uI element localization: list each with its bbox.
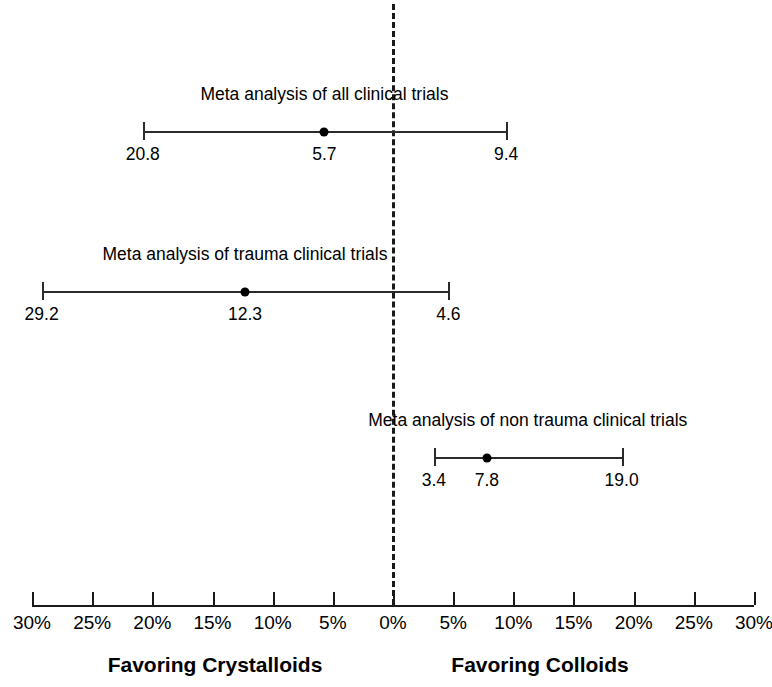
x-axis-tick	[333, 592, 335, 605]
ci-lower-cap	[42, 282, 44, 300]
x-axis-tick	[273, 592, 275, 605]
x-axis-tick	[453, 592, 455, 605]
ci-lower-value: 29.2	[25, 306, 59, 324]
point-estimate-value: 12.3	[228, 306, 262, 324]
favoring-left-caption: Favoring Crystalloids	[108, 654, 323, 675]
ci-upper-value: 9.4	[494, 146, 518, 164]
x-axis-tick	[152, 592, 154, 605]
x-axis-tick-label: 10%	[254, 613, 292, 632]
x-axis-tick-label: 5%	[319, 613, 346, 632]
x-axis-tick-label: 20%	[133, 613, 171, 632]
forest-plot: Meta analysis of all clinical trials20.8…	[0, 0, 772, 687]
x-axis-tick	[513, 592, 515, 605]
ci-upper-value: 4.6	[436, 306, 460, 324]
ci-lower-cap	[434, 448, 436, 466]
point-estimate-value: 5.7	[312, 146, 336, 164]
ci-upper-cap	[506, 122, 508, 140]
x-axis-tick-label: 25%	[675, 613, 713, 632]
x-axis-tick-label: 20%	[615, 613, 653, 632]
study-label: Meta analysis of all clinical trials	[200, 86, 448, 104]
ci-lower-value: 3.4	[422, 472, 446, 490]
x-axis-tick	[754, 592, 756, 605]
confidence-interval-bar	[434, 457, 622, 459]
x-axis-tick-label: 10%	[494, 613, 532, 632]
x-axis-line	[32, 605, 754, 607]
x-axis-tick	[634, 592, 636, 605]
ci-lower-cap	[143, 122, 145, 140]
x-axis-tick	[213, 592, 215, 605]
ci-upper-value: 19.0	[605, 472, 639, 490]
point-estimate-value: 7.8	[475, 472, 499, 490]
x-axis-tick-label: 25%	[73, 613, 111, 632]
ci-lower-value: 20.8	[126, 146, 160, 164]
x-axis-tick-label: 15%	[193, 613, 231, 632]
x-axis-tick-label: 30%	[13, 613, 51, 632]
x-axis-tick-label: 30%	[735, 613, 772, 632]
x-axis-tick-label: 0%	[379, 613, 406, 632]
x-axis-tick-label: 15%	[554, 613, 592, 632]
x-axis-tick	[573, 592, 575, 605]
study-label: Meta analysis of trauma clinical trials	[103, 246, 388, 264]
study-label: Meta analysis of non trauma clinical tri…	[368, 412, 687, 430]
point-estimate-marker	[482, 454, 491, 463]
point-estimate-marker	[320, 128, 329, 137]
x-axis-tick-label: 5%	[439, 613, 466, 632]
x-axis-tick	[32, 592, 34, 605]
ci-upper-cap	[622, 448, 624, 466]
favoring-right-caption: Favoring Colloids	[451, 654, 628, 675]
x-axis-tick	[694, 592, 696, 605]
point-estimate-marker	[240, 288, 249, 297]
x-axis-tick	[393, 592, 395, 605]
x-axis-tick	[92, 592, 94, 605]
ci-upper-cap	[448, 282, 450, 300]
